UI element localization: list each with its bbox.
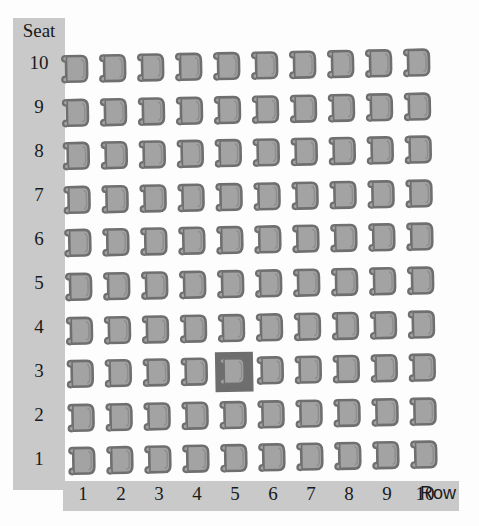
seat-cell-row6-seat9[interactable] [247,88,286,131]
seat-cell-row10-seat9[interactable] [399,85,438,128]
seat-cell-row8-seat7[interactable] [325,173,364,216]
seat-cell-row7-seat3[interactable] [290,348,329,391]
seat-cell-row9-seat3[interactable] [366,347,405,390]
seat-cell-row7-seat5[interactable] [288,261,327,304]
seat-cell-row8-seat2[interactable] [329,391,368,434]
seat-cell-row4-seat8[interactable] [172,133,211,176]
seat-cell-row1-seat9[interactable] [57,91,96,134]
seat-cell-row9-seat7[interactable] [363,173,402,216]
seat-cell-row1-seat5[interactable] [60,265,99,308]
seat-cell-row5-seat6[interactable] [211,219,250,262]
seat-cell-row1-seat4[interactable] [61,309,100,352]
seat-cell-row6-seat4[interactable] [251,306,290,349]
seat-cell-row2-seat1[interactable] [101,439,140,482]
seat-cell-row8-seat10[interactable] [322,43,361,86]
seat-cell-row8-seat8[interactable] [324,130,363,173]
seat-cell-row3-seat8[interactable] [134,133,173,176]
seat-cell-row2-seat2[interactable] [101,396,140,439]
seat-cell-row10-seat10[interactable] [398,41,437,84]
seat-cell-row9-seat8[interactable] [362,129,401,172]
seat-cell-row8-seat6[interactable] [325,217,364,260]
seat-cell-row2-seat4[interactable] [99,308,138,351]
seat-cell-row6-seat3[interactable] [252,349,291,392]
seat-cell-row9-seat2[interactable] [367,391,406,434]
seat-cell-row3-seat10[interactable] [132,46,171,89]
seat-cell-row4-seat2[interactable] [177,394,216,437]
seat-cell-row6-seat7[interactable] [249,175,288,218]
seat-cell-row8-seat4[interactable] [327,304,366,347]
seat-cell-row10-seat8[interactable] [400,128,439,171]
seat-cell-row2-seat3[interactable] [100,352,139,395]
seat-cell-row1-seat7[interactable] [59,178,98,221]
seat-cell-row3-seat2[interactable] [139,395,178,438]
seat-cell-row3-seat6[interactable] [135,220,174,263]
seat-cell-row5-seat3[interactable] [214,350,253,393]
seat-cell-row6-seat2[interactable] [253,393,292,436]
seat-cell-row5-seat4[interactable] [213,306,252,349]
seat-cell-row1-seat1[interactable] [63,440,102,483]
seat-cell-row4-seat4[interactable] [175,307,214,350]
seat-cell-row9-seat5[interactable] [364,260,403,303]
seat-cell-row1-seat8[interactable] [58,135,97,178]
seat-cell-row4-seat5[interactable] [174,263,213,306]
seat-cell-row5-seat1[interactable] [215,437,254,480]
seat-cell-row7-seat8[interactable] [286,130,325,173]
seat-cell-row4-seat6[interactable] [173,220,212,263]
seat-cell-row6-seat8[interactable] [248,131,287,174]
seat-cell-row3-seat1[interactable] [139,438,178,481]
seat-cell-row5-seat5[interactable] [212,263,251,306]
seat-cell-row7-seat2[interactable] [291,392,330,435]
seat-cell-row10-seat3[interactable] [404,346,443,389]
seat-cell-row2-seat8[interactable] [96,134,135,177]
seat-cell-row8-seat3[interactable] [328,348,367,391]
seat-cell-row2-seat5[interactable] [98,265,137,308]
seat-cell-row9-seat4[interactable] [365,303,404,346]
seat-cell-row2-seat10[interactable] [94,47,133,90]
seat-cell-row3-seat3[interactable] [138,351,177,394]
seat-cell-row9-seat6[interactable] [363,216,402,259]
seat-cell-row5-seat2[interactable] [215,393,254,436]
seat-cell-row7-seat7[interactable] [287,174,326,217]
seat-cell-row6-seat10[interactable] [246,44,285,87]
seat-cell-row7-seat10[interactable] [284,43,323,86]
seat-cell-row10-seat1[interactable] [405,434,444,477]
seat-cell-row5-seat9[interactable] [209,88,248,131]
seat-cell-row10-seat4[interactable] [403,303,442,346]
seat-cell-row8-seat1[interactable] [329,435,368,478]
seat-cell-row10-seat5[interactable] [402,259,441,302]
seat-cell-row7-seat9[interactable] [285,87,324,130]
seat-cell-row7-seat6[interactable] [287,218,326,261]
seat-cell-row5-seat10[interactable] [208,45,247,88]
seat-cell-row2-seat6[interactable] [97,221,136,264]
seat-cell-row10-seat7[interactable] [401,172,440,215]
seat-cell-row4-seat1[interactable] [177,438,216,481]
seat-cell-row7-seat1[interactable] [291,436,330,479]
seat-cell-row8-seat9[interactable] [323,86,362,129]
seat-cell-row2-seat7[interactable] [97,178,136,221]
seat-cell-row9-seat1[interactable] [367,434,406,477]
seat-cell-row7-seat4[interactable] [289,305,328,348]
seat-cell-row10-seat6[interactable] [401,216,440,259]
seat-cell-row1-seat10[interactable] [56,47,95,90]
seat-cell-row1-seat3[interactable] [62,353,101,396]
seat-cell-row5-seat8[interactable] [210,132,249,175]
seat-cell-row9-seat9[interactable] [361,86,400,129]
seat-cell-row4-seat7[interactable] [173,176,212,219]
seat-cell-row3-seat4[interactable] [137,308,176,351]
seat-cell-row1-seat2[interactable] [63,396,102,439]
seat-cell-row5-seat7[interactable] [211,175,250,218]
seat-cell-row2-seat9[interactable] [95,90,134,133]
seat-cell-row9-seat10[interactable] [360,42,399,85]
seat-cell-row10-seat2[interactable] [405,390,444,433]
seat-cell-row3-seat5[interactable] [136,264,175,307]
seat-cell-row6-seat1[interactable] [253,436,292,479]
seat-cell-row6-seat5[interactable] [250,262,289,305]
seat-cell-row8-seat5[interactable] [326,261,365,304]
seat-cell-row6-seat6[interactable] [249,218,288,261]
seat-cell-row3-seat7[interactable] [135,177,174,220]
seat-cell-row1-seat6[interactable] [59,222,98,265]
seat-cell-row4-seat9[interactable] [171,89,210,132]
seat-cell-row3-seat9[interactable] [133,90,172,133]
seat-cell-row4-seat3[interactable] [176,351,215,394]
seat-cell-row4-seat10[interactable] [170,45,209,88]
